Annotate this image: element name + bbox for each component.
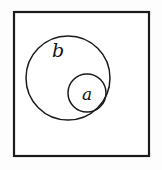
- diagram-canvas: b a: [0, 0, 162, 170]
- set-label-a: a: [82, 84, 92, 104]
- venn-diagram: b a: [0, 0, 162, 170]
- set-label-b: b: [52, 39, 64, 61]
